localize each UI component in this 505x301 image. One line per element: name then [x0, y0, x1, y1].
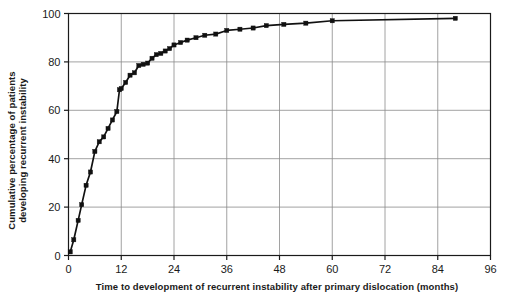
data-point-marker	[178, 40, 182, 44]
x-tick-label: 84	[432, 263, 444, 275]
data-point-marker	[225, 28, 229, 32]
data-point-marker	[146, 61, 150, 65]
data-point-marker	[132, 71, 136, 75]
y-axis-title-line-1: Cumulative percentage of patients	[6, 71, 18, 230]
data-point-marker	[159, 51, 163, 55]
y-tick-label: 100	[42, 8, 60, 20]
x-tick-label: 36	[221, 263, 233, 275]
data-point-marker	[115, 109, 119, 113]
data-point-marker	[453, 16, 457, 20]
x-tick-label: 72	[379, 263, 391, 275]
data-point-marker	[97, 140, 101, 144]
data-point-marker	[80, 203, 84, 207]
data-point-marker	[106, 126, 110, 130]
data-point-marker	[68, 250, 72, 254]
data-point-marker	[282, 22, 286, 26]
data-point-marker	[238, 27, 242, 31]
y-axis-title: Cumulative percentage of patients develo…	[0, 0, 34, 301]
y-axis-title-line-2: developing recurrent instability	[17, 78, 29, 223]
data-point-marker	[214, 32, 218, 36]
data-point-marker	[84, 183, 88, 187]
data-point-marker	[76, 218, 80, 222]
data-point-marker	[93, 149, 97, 153]
data-point-marker	[102, 135, 106, 139]
data-point-marker	[124, 80, 128, 84]
data-point-marker	[150, 56, 154, 60]
chart-figure: Time to development of recurrent instabi…	[0, 0, 505, 301]
data-point-marker	[141, 62, 145, 66]
data-point-marker	[163, 49, 167, 53]
x-tick-label: 0	[65, 263, 71, 275]
x-tick-label: 12	[115, 263, 127, 275]
y-tick-label: 60	[48, 104, 60, 116]
data-point-marker	[264, 24, 268, 28]
data-point-marker	[72, 238, 76, 242]
data-point-marker	[172, 43, 176, 47]
series-line-0	[70, 18, 455, 252]
x-tick-label: 60	[326, 263, 338, 275]
data-point-marker	[194, 36, 198, 40]
data-point-marker	[168, 46, 172, 50]
x-tick-label: 48	[273, 263, 285, 275]
data-point-marker	[137, 63, 141, 67]
y-tick-label: 0	[54, 250, 60, 262]
data-point-marker	[251, 26, 255, 30]
data-point-marker	[119, 86, 123, 90]
data-point-marker	[203, 33, 207, 37]
data-point-marker	[154, 53, 158, 57]
data-point-marker	[304, 21, 308, 25]
data-point-marker	[330, 19, 334, 23]
data-point-marker	[88, 170, 92, 174]
x-tick-label: 96	[484, 263, 496, 275]
y-tick-label: 20	[48, 201, 60, 213]
y-tick-label: 80	[48, 56, 60, 68]
data-point-marker	[128, 73, 132, 77]
data-point-marker	[110, 118, 114, 122]
x-tick-label: 24	[168, 263, 180, 275]
data-point-marker	[185, 38, 189, 42]
cumulative-incidence-plot	[0, 0, 505, 301]
y-tick-label: 40	[48, 153, 60, 165]
x-axis-title: Time to development of recurrent instabi…	[62, 281, 492, 292]
